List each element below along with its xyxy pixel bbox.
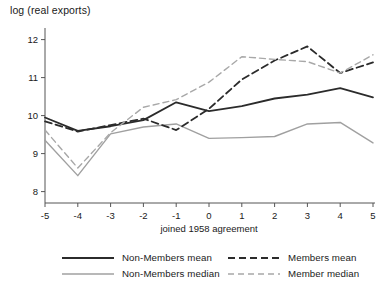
legend-label: Non-Members mean: [122, 252, 212, 263]
legend-item-non-members-median: Non-Members median: [62, 266, 220, 281]
legend-swatch-dashed-gray: [228, 269, 280, 279]
y-tick-label: 10: [27, 110, 38, 121]
plot-area: 89101112-5-4-3-2-1012345joined 1958 agre…: [0, 0, 392, 248]
x-tick-label: 1: [239, 210, 244, 221]
y-tick-label: 9: [33, 148, 38, 159]
legend-swatch-solid-gray: [62, 269, 114, 279]
legend-item-members-mean: Members mean: [228, 250, 357, 265]
x-axis-title: joined 1958 agreement: [159, 223, 258, 234]
y-tick-label: 8: [33, 186, 38, 197]
x-tick-label: -2: [139, 210, 147, 221]
series-line: [45, 122, 373, 175]
legend-label: Member median: [288, 268, 359, 279]
legend-item-non-members-mean: Non-Members mean: [62, 250, 212, 265]
series-line: [45, 88, 373, 131]
x-tick-label: 3: [305, 210, 310, 221]
legend-swatch-dashed-dark: [228, 253, 280, 263]
legend-item-member-median: Member median: [228, 266, 359, 281]
chart-legend: Non-Members mean Members mean Non-Member…: [0, 248, 392, 287]
x-tick-label: 2: [272, 210, 277, 221]
series-line: [45, 46, 373, 131]
y-tick-label: 11: [28, 72, 38, 83]
x-tick-label: -4: [74, 210, 82, 221]
x-tick-label: -3: [106, 210, 114, 221]
legend-swatch-solid-dark: [62, 253, 114, 263]
x-tick-label: -5: [41, 210, 49, 221]
legend-label: Non-Members median: [122, 268, 220, 279]
x-tick-label: -1: [172, 210, 180, 221]
x-tick-label: 0: [206, 210, 211, 221]
x-tick-label: 4: [338, 210, 343, 221]
legend-label: Members mean: [288, 252, 357, 263]
x-tick-label: 5: [370, 210, 375, 221]
y-tick-label: 12: [27, 34, 38, 45]
chart-figure: log (real exports) 89101112-5-4-3-2-1012…: [0, 0, 392, 287]
